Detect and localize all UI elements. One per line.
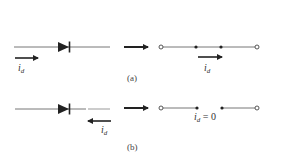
diode-symbol-icon xyxy=(58,42,70,53)
panel-a: id id (a) xyxy=(14,42,259,84)
caption-b: (b) xyxy=(127,142,138,152)
caption-a: (a) xyxy=(127,73,137,83)
node-dot-icon xyxy=(195,106,198,109)
diode-equivalent-diagram: id id (a) id id = xyxy=(0,0,282,166)
short-circuit-equivalent xyxy=(159,45,259,49)
terminal-open-icon xyxy=(255,45,259,49)
terminal-open-icon xyxy=(255,106,259,110)
node-dot-icon xyxy=(194,45,197,48)
zero-current-label: id = 0 xyxy=(194,111,216,124)
diode-symbol-icon xyxy=(58,104,70,115)
node-dot-icon xyxy=(220,106,223,109)
equiv-current-label-a: id xyxy=(204,62,211,75)
current-label-b: id xyxy=(101,124,108,137)
open-circuit-equivalent xyxy=(159,106,259,110)
node-dot-icon xyxy=(219,45,222,48)
terminal-open-icon xyxy=(159,45,163,49)
current-label-a: id xyxy=(18,62,25,75)
terminal-open-icon xyxy=(159,106,163,110)
panel-b: id id = 0 (b) xyxy=(15,104,259,153)
